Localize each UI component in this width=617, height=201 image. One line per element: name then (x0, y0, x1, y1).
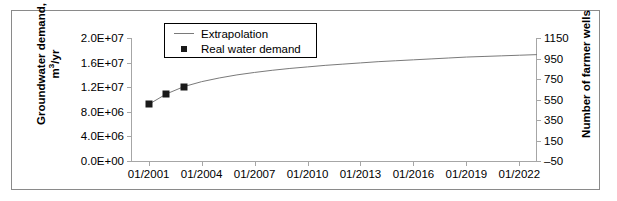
x-axis-tick-label: 01/2019 (446, 168, 488, 180)
x-axis-tick-label: 01/2013 (340, 168, 382, 180)
y-axis-right-tick-label: 150 (544, 135, 563, 147)
data-point-marker (145, 101, 152, 108)
y-axis-right-tick-label: 350 (544, 114, 563, 126)
y-axis-right-tick-label: 1150 (544, 32, 569, 44)
x-axis-tick-label: 01/2016 (393, 168, 435, 180)
y-axis-right-tick-label: 950 (544, 53, 563, 65)
y-axis-left-title-line2: m3/yr (48, 50, 62, 79)
legend-label-real-water-demand: Real water demand (201, 43, 301, 55)
x-axis-tick-label: 01/2004 (181, 168, 223, 180)
y-axis-right-tick-label: 750 (544, 73, 563, 85)
chart-figure: Groundwater demand, m3/yr Number of farm… (0, 0, 617, 201)
y-axis-left-tick-label: 1.6E+07 (81, 57, 124, 69)
y-axis-left-tick-label: 4.0E+06 (81, 130, 124, 142)
legend-item-real-water-demand: Real water demand (165, 41, 316, 56)
y-axis-left-tick-label: 2.0E+07 (81, 32, 124, 44)
square-marker-icon (172, 46, 196, 52)
y-axis-left-tick-label: 8.0E+06 (81, 106, 124, 118)
data-point-marker (180, 83, 187, 90)
x-axis-tick-label: 01/2010 (287, 168, 329, 180)
x-axis-tick-label: 01/2001 (128, 168, 170, 180)
data-point-marker (163, 90, 170, 97)
chart-frame: Groundwater demand, m3/yr Number of farm… (11, 10, 600, 190)
chart-legend: Extrapolation Real water demand (164, 23, 317, 58)
y-axis-left-tick-label: 0.0E+00 (81, 155, 124, 167)
y-axis-right-tick-label: –50 (544, 155, 563, 167)
legend-label-extrapolation: Extrapolation (201, 28, 268, 40)
legend-item-extrapolation: Extrapolation (165, 26, 316, 41)
x-axis-tick-label: 01/2022 (499, 168, 541, 180)
line-key-icon (172, 33, 196, 34)
y-axis-left-tick-label: 1.2E+07 (81, 81, 124, 93)
y-axis-right-tick-label: 550 (544, 94, 563, 106)
x-axis-tick-label: 01/2007 (234, 168, 276, 180)
y-axis-left-title: Groundwater demand, m3/yr (31, 0, 65, 134)
y-axis-right-title: Number of farmer wells (578, 0, 594, 154)
